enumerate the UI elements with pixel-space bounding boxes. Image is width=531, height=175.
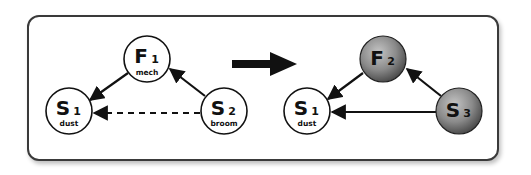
- transition-arrow-icon: [232, 52, 297, 76]
- node-f1-sub: 1: [151, 53, 159, 66]
- node-f2: F 2: [360, 36, 406, 82]
- node-s2: S 2 broom: [201, 88, 247, 134]
- edge-f1-to-s1: [90, 73, 128, 100]
- node-s1-sub: 1: [73, 105, 81, 118]
- node-f2-sub: 2: [387, 55, 395, 68]
- node-s3-sub: 3: [463, 107, 471, 120]
- node-s2-sub: 2: [228, 105, 236, 118]
- node-f2-letter: F: [370, 46, 384, 70]
- edge-f2-to-s1: [328, 73, 363, 99]
- node-f1: F 1 mech: [124, 36, 170, 82]
- node-s1-after-letter: S: [294, 96, 308, 120]
- su-field-diagram: F 1 mech S 1 dust S 2 broom F 2 S 1 dust: [0, 0, 531, 175]
- node-s1-after: S 1 dust: [284, 88, 330, 134]
- edge-s3-to-f2: [407, 69, 441, 96]
- node-f1-letter: F: [134, 44, 148, 68]
- node-s1-caption: dust: [60, 119, 79, 128]
- node-s3: S 3: [436, 88, 482, 134]
- node-s2-letter: S: [211, 96, 225, 120]
- edge-s2-to-f1: [170, 69, 205, 96]
- node-s2-caption: broom: [210, 119, 237, 128]
- node-s3-letter: S: [446, 98, 460, 122]
- node-f1-caption: mech: [136, 68, 159, 77]
- node-s1-after-caption: dust: [298, 119, 317, 128]
- node-s1-after-sub: 1: [311, 105, 319, 118]
- node-s1-letter: S: [56, 96, 70, 120]
- node-s1: S 1 dust: [46, 88, 92, 134]
